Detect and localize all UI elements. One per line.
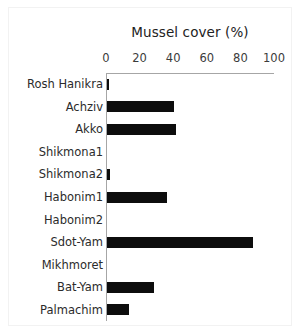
bar: [107, 79, 109, 90]
bar: [107, 169, 110, 180]
y-axis-label: Habonim2: [19, 213, 103, 227]
x-tick-label: 60: [199, 51, 214, 65]
figure-frame: Mussel cover (%) 020406080100 Rosh Hanik…: [8, 7, 292, 326]
bar: [107, 304, 129, 315]
y-axis-label: Akko: [19, 122, 103, 136]
y-axis-label: Palmachim: [19, 303, 103, 317]
x-axis-tick-labels: 020406080100: [106, 51, 274, 67]
x-axis-line: [106, 73, 274, 74]
bar: [107, 282, 154, 293]
y-axis-label: Bat-Yam: [19, 280, 103, 294]
chart-title: Mussel cover (%): [106, 24, 274, 40]
y-axis-label: Sdot-Yam: [19, 235, 103, 249]
x-tick-label: 40: [166, 51, 181, 65]
bar: [107, 192, 167, 203]
y-axis-label: Achziv: [19, 100, 103, 114]
x-tick-label: 80: [233, 51, 248, 65]
bar: [107, 101, 174, 112]
chart-figure: Mussel cover (%) 020406080100 Rosh Hanik…: [0, 0, 300, 334]
y-axis-category-labels: Rosh HanikraAchzivAkkoShikmona1Shikmona2…: [19, 73, 103, 321]
y-axis-label: Mikhmoret: [19, 258, 103, 272]
y-axis-label: Habonim1: [19, 190, 103, 204]
bar: [107, 237, 253, 248]
y-axis-label: Rosh Hanikra: [19, 77, 103, 91]
x-tick-label: 100: [263, 51, 285, 65]
y-axis-label: Shikmona2: [19, 167, 103, 181]
bar: [107, 124, 176, 135]
x-tick-label: 0: [102, 51, 109, 65]
x-tick-label: 20: [132, 51, 147, 65]
y-axis-label: Shikmona1: [19, 145, 103, 159]
plot-area: [106, 73, 274, 321]
